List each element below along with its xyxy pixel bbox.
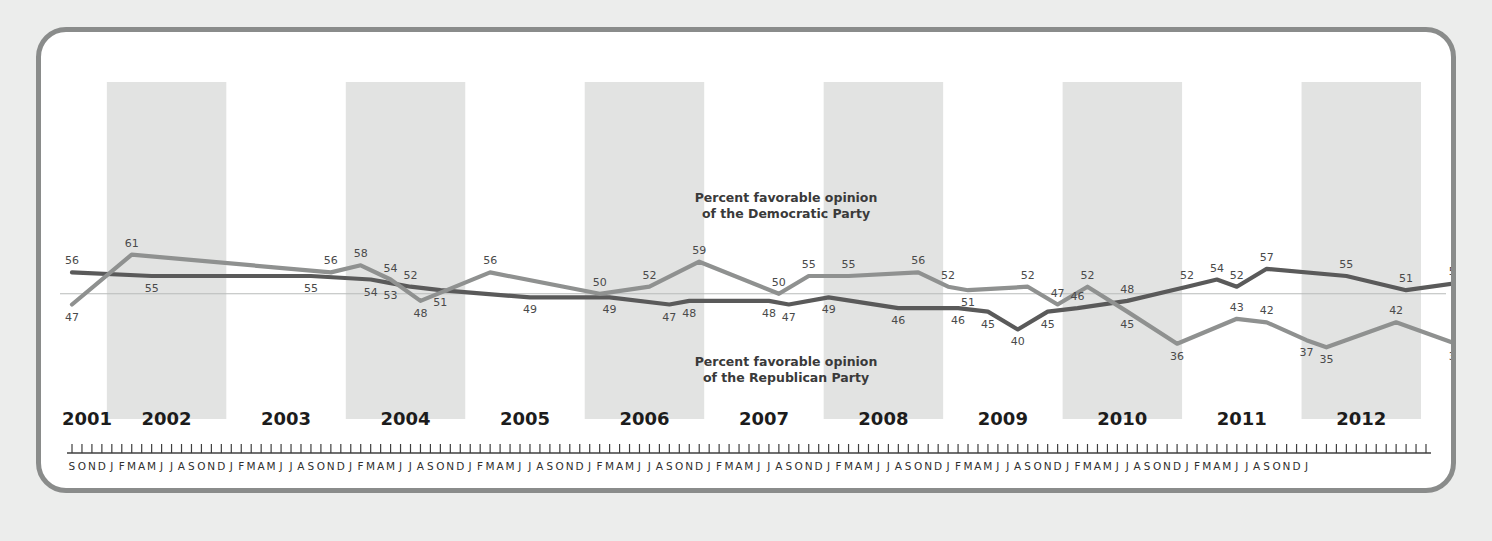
month-tick-label: M [724,460,733,472]
value-label: 48 [1120,283,1134,296]
month-tick-label: M [844,460,853,472]
value-label: 52 [1021,269,1035,282]
month-tick-label: D [1053,460,1061,472]
month-tick-label: M [266,460,275,472]
month-tick-label: S [1263,460,1270,472]
year-band-2010 [1063,82,1182,419]
year-labels: 2001200220032004200520062007200820092010… [62,408,1386,429]
year-label-2004: 2004 [380,408,430,429]
month-tick-label: O [914,460,922,472]
value-label: 50 [593,276,607,289]
value-label: 50 [772,276,786,289]
month-tick-label: A [735,460,743,472]
month-tick-label: O [197,460,205,472]
month-tick-label: O [1272,460,1280,472]
value-label: 48 [762,307,776,320]
year-band-2006 [585,82,704,419]
month-tick-label: J [1244,460,1248,472]
month-tick-label: A [1253,460,1261,472]
month-tick-label: A [616,460,624,472]
month-tick-label: N [1163,460,1171,472]
chart-plot-area: 5655555453525149494748484749464645404546… [41,32,1451,488]
value-label: 45 [981,318,995,331]
value-label: 55 [304,282,318,295]
year-label-2001: 2001 [62,408,112,429]
month-tick-label: S [188,460,195,472]
month-tick-label: N [446,460,454,472]
month-tick-label: O [1033,460,1041,472]
month-tick-label: J [527,460,531,472]
month-tick-label: F [119,460,125,472]
month-tick-label: J [1115,460,1119,472]
month-tick-label: J [408,460,412,472]
month-tick-label: J [1125,460,1129,472]
year-band-2012 [1302,82,1421,419]
year-label-2009: 2009 [978,408,1028,429]
month-tick-label: J [278,460,282,472]
month-tick-label: O [436,460,444,472]
month-tick-label: J [398,460,402,472]
month-tick-label: F [1194,460,1200,472]
month-tick-label: A [855,460,863,472]
month-tick-label: J [707,460,711,472]
value-label: 52 [1230,269,1244,282]
month-tick-label: D [695,460,703,472]
value-label: 49 [822,303,836,316]
month-tick-label: D [1292,460,1300,472]
month-tick-label: S [546,460,553,472]
month-tick-label: M [127,460,136,472]
month-tick-label: J [1005,460,1009,472]
month-tick-label: A [257,460,265,472]
annotation-dem-line2: of the Democratic Party [702,206,870,221]
data-point-labels: 5655555453525149494748484749464645404546… [65,237,1451,370]
month-tick-label: S [427,460,434,472]
year-label-2008: 2008 [858,408,908,429]
month-tick-label: O [675,460,683,472]
month-tick-label: F [238,460,244,472]
month-tick-label: J [468,460,472,472]
month-tick-label: F [1074,460,1080,472]
month-tick-label: M [366,460,375,472]
year-label-2012: 2012 [1336,408,1386,429]
month-tick-label: A [297,460,305,472]
month-tick-label: D [1173,460,1181,472]
month-tick-label: M [864,460,873,472]
month-tick-label: A [1134,460,1142,472]
value-label: 47 [1051,287,1065,300]
month-tick-label: M [625,460,634,472]
month-tick-label: M [386,460,395,472]
month-tick-label: M [147,460,156,472]
year-label-2007: 2007 [739,408,789,429]
month-tick-label: N [88,460,96,472]
year-label-2003: 2003 [261,408,311,429]
value-label: 56 [65,254,79,267]
value-label: 56 [483,254,497,267]
value-label: 47 [65,311,79,324]
value-label: 42 [1389,304,1403,317]
value-label: 59 [692,244,706,257]
month-tick-labels: SONDJFMAMJJASONDJFMAMJJASONDJFMAMJJASOND… [69,460,1309,472]
value-label: 52 [642,269,656,282]
value-label: 47 [662,311,676,324]
month-tick-label: A [1094,460,1102,472]
month-tick-label: J [637,460,641,472]
year-label-2010: 2010 [1097,408,1147,429]
value-label: 55 [145,282,159,295]
month-tick-label: J [1184,460,1188,472]
month-tick-label: J [945,460,949,472]
month-tick-label: A [1213,460,1221,472]
month-tick-label: F [716,460,722,472]
month-tick-label: F [597,460,603,472]
month-tick-label: M [505,460,514,472]
month-tick-label: J [587,460,591,472]
value-label: 46 [1071,290,1085,303]
value-label: 52 [941,269,955,282]
value-label: 54 [384,262,398,275]
value-label: 48 [413,307,427,320]
value-label: 56 [911,254,925,267]
month-tick-label: M [983,460,992,472]
month-tick-label: D [456,460,464,472]
month-tick-label: F [358,460,364,472]
month-tick-label: D [217,460,225,472]
value-label: 55 [802,258,816,271]
